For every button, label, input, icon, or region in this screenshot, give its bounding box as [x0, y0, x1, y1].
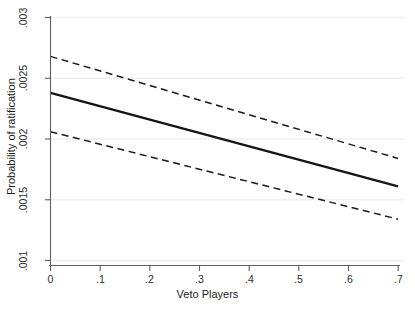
chart-figure: .003 .0025 .002 .0015 .001 0 .1 .2 .3 .4…: [0, 0, 415, 311]
y-tick-label-0002: .002: [17, 122, 29, 156]
y-tick-label-00015: .0015: [17, 183, 29, 217]
y-axis-title: Probability of ratification: [5, 85, 17, 195]
y-tick-label-00025: .0025: [17, 61, 29, 95]
gridlines: [50, 18, 405, 261]
x-tick-label-04: .4: [235, 273, 264, 285]
x-tick-label-06: .6: [334, 273, 363, 285]
plot-canvas: [0, 0, 415, 311]
y-tick-label-0001: .001: [17, 244, 29, 278]
x-tick-label-07: .7: [384, 273, 413, 285]
y-axis-ticks: [45, 18, 51, 261]
x-axis-ticks: [51, 266, 399, 272]
y-tick-label-0003: .003: [17, 1, 29, 35]
x-tick-label-0: 0: [36, 273, 65, 285]
x-axis-title: Veto Players: [0, 288, 415, 300]
x-tick-label-01: .1: [86, 273, 115, 285]
x-tick-label-05: .5: [284, 273, 313, 285]
series-lower-bound-line: [51, 132, 399, 219]
x-tick-label-02: .2: [135, 273, 164, 285]
x-tick-label-03: .3: [185, 273, 214, 285]
